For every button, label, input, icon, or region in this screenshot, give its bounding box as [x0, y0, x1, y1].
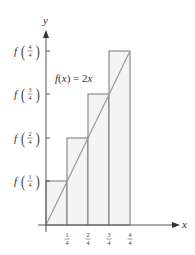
svg-text:4: 4: [29, 52, 32, 58]
svg-text:3: 3: [29, 87, 32, 93]
svg-text:f: f: [14, 175, 19, 187]
svg-text:): ): [36, 42, 40, 62]
svg-text:(: (: [21, 129, 25, 149]
y-tick-label-4: f ( 4 4 ): [14, 42, 40, 62]
x-axis-label: x: [181, 218, 187, 230]
x-tick-label-3: 3 4: [107, 232, 112, 246]
svg-text:(: (: [21, 85, 25, 105]
svg-text:): ): [36, 129, 40, 149]
x-tick-label-4: 4 4: [128, 232, 133, 246]
y-tick-labels: f ( 1 4 ) f ( 2 4 ) f ( 3 4 ) f ( 4: [14, 42, 40, 192]
svg-text:4: 4: [29, 95, 32, 101]
svg-text:): ): [36, 172, 40, 192]
svg-text:4: 4: [29, 139, 32, 145]
rectangle-4: [109, 51, 130, 225]
x-tick-label-2: 2 4: [86, 232, 91, 246]
x-tick-label-1: 1 4: [65, 232, 70, 246]
rectangle-2: [67, 138, 88, 225]
svg-text:4: 4: [66, 240, 69, 246]
function-label: f(x) = 2x: [55, 72, 93, 85]
riemann-diagram: x y f(x) = 2x f ( 1 4 ) f ( 2 4 ) f ( 3 …: [0, 0, 195, 255]
svg-text:1: 1: [66, 232, 69, 238]
y-tick-label-1: f ( 1 4 ): [14, 172, 40, 192]
svg-text:4: 4: [108, 240, 111, 246]
svg-text:4: 4: [129, 232, 132, 238]
x-axis-arrow-icon: [172, 222, 180, 228]
svg-text:1: 1: [29, 174, 32, 180]
svg-text:2: 2: [29, 131, 32, 137]
x-tick-labels: 1 4 2 4 3 4 4 4: [65, 232, 133, 246]
svg-text:f: f: [14, 132, 19, 144]
svg-text:(: (: [21, 172, 25, 192]
svg-text:f: f: [14, 88, 19, 100]
svg-text:4: 4: [129, 240, 132, 246]
svg-text:2: 2: [87, 232, 90, 238]
rectangle-3: [88, 94, 109, 225]
y-tick-label-2: f ( 2 4 ): [14, 129, 40, 149]
svg-text:4: 4: [87, 240, 90, 246]
svg-text:(: (: [21, 42, 25, 62]
y-tick-label-3: f ( 3 4 ): [14, 85, 40, 105]
svg-text:4: 4: [29, 182, 32, 188]
svg-text:f: f: [14, 45, 19, 57]
svg-text:): ): [36, 85, 40, 105]
y-axis-label: y: [42, 14, 48, 26]
svg-text:3: 3: [108, 232, 111, 238]
y-axis-arrow-icon: [43, 30, 49, 38]
svg-text:4: 4: [29, 44, 32, 50]
